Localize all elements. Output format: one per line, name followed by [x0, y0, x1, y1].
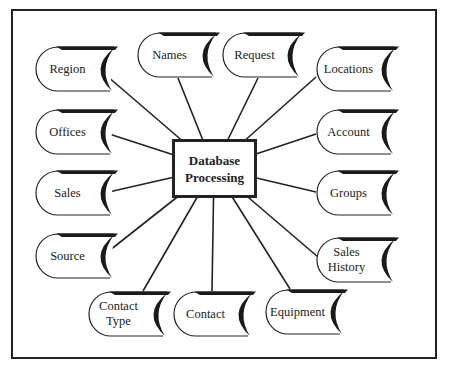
center-label-line2: Processing [185, 169, 244, 186]
storage-node-offices: Offices [35, 109, 118, 155]
node-label: Contact [173, 291, 238, 337]
node-label: Names [137, 32, 202, 78]
node-label: Locations [316, 46, 381, 92]
node-label: Sales History [316, 237, 373, 283]
node-label: Offices [35, 109, 100, 155]
node-label: Region [35, 46, 100, 92]
node-label: Equipment [265, 289, 330, 335]
node-label: Groups [316, 170, 381, 216]
storage-node-sales-history: Sales History [316, 237, 399, 283]
storage-node-request: Request [222, 32, 305, 78]
node-label: Source [35, 233, 100, 279]
storage-node-account: Account [316, 109, 399, 155]
storage-node-region: Region [35, 46, 118, 92]
center-label-line1: Database [189, 152, 240, 169]
storage-node-sales: Sales [35, 170, 118, 216]
node-label: Request [222, 32, 287, 78]
storage-node-contact: Contact [173, 291, 256, 337]
storage-node-names: Names [137, 32, 220, 78]
storage-node-contact-type: Contact Type [88, 291, 171, 337]
node-label: Contact Type [88, 291, 145, 337]
node-label: Account [316, 109, 381, 155]
storage-node-locations: Locations [316, 46, 399, 92]
storage-node-groups: Groups [316, 170, 399, 216]
storage-node-source: Source [35, 233, 118, 279]
node-label: Sales [35, 170, 100, 216]
database-processing-box: Database Processing [172, 139, 257, 198]
storage-node-equipment: Equipment [265, 289, 348, 335]
